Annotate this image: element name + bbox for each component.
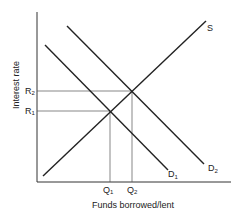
loanable-funds-chart: S D1 D2 R2 R1 Q1 Q2 Funds borrowed/lent …	[0, 0, 243, 217]
r1-label: R1	[25, 106, 36, 116]
d2-label: D2	[208, 163, 219, 174]
q2-label: Q2	[127, 185, 138, 195]
y-axis-label: Interest rate	[11, 61, 21, 109]
x-axis-label: Funds borrowed/lent	[92, 200, 175, 210]
demand-line-d1	[45, 45, 168, 170]
supply-label: S	[207, 23, 213, 33]
d1-label: D1	[168, 169, 179, 180]
r2-label: R2	[25, 86, 36, 96]
q1-label: Q1	[103, 185, 114, 195]
supply-line	[43, 21, 206, 176]
demand-line-d2	[67, 26, 204, 164]
